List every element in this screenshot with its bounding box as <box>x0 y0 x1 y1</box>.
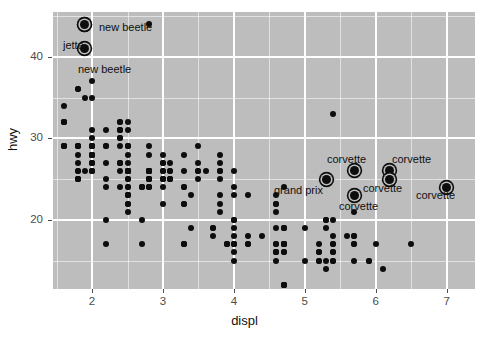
x-tick-mark <box>447 289 448 293</box>
data-point <box>195 160 201 166</box>
data-point <box>351 258 357 264</box>
data-point <box>117 184 123 190</box>
x-tick-label: 7 <box>432 296 462 308</box>
data-point <box>61 119 67 125</box>
point-label: jetta <box>63 40 84 51</box>
data-point <box>351 241 357 247</box>
gridline-minor-horizontal <box>53 98 475 99</box>
data-point <box>160 152 166 158</box>
gridline-major-horizontal <box>53 56 475 58</box>
data-point <box>82 95 88 101</box>
data-point <box>181 184 187 190</box>
data-point <box>146 168 152 174</box>
data-point <box>181 152 187 158</box>
gridline-major-vertical <box>375 12 377 289</box>
data-point <box>89 160 95 166</box>
gridline-minor-vertical <box>198 12 199 289</box>
gridline-major-horizontal <box>53 219 475 221</box>
data-point <box>323 266 329 272</box>
data-point <box>117 168 123 174</box>
data-point <box>231 258 237 264</box>
x-tick-label: 4 <box>219 296 249 308</box>
point-label: grand prix <box>274 185 323 196</box>
data-point <box>217 192 223 198</box>
data-point <box>103 176 109 182</box>
data-point <box>231 192 237 198</box>
data-point <box>146 143 152 149</box>
data-point <box>316 241 322 247</box>
y-tick-label: 40 <box>13 51 43 63</box>
data-point <box>245 233 251 239</box>
data-point <box>188 192 194 198</box>
data-point <box>302 225 308 231</box>
gridline-major-vertical <box>91 12 93 289</box>
data-point <box>75 176 81 182</box>
data-point <box>231 233 237 239</box>
data-point <box>231 184 237 190</box>
data-point <box>117 160 123 166</box>
data-point <box>89 127 95 133</box>
data-point <box>273 258 279 264</box>
data-point <box>281 249 287 255</box>
y-axis-title: hwy <box>5 104 20 176</box>
data-point <box>181 168 187 174</box>
data-point <box>103 160 109 166</box>
data-point <box>103 241 109 247</box>
data-point <box>330 249 336 255</box>
data-point <box>139 241 145 247</box>
data-point <box>231 249 237 255</box>
data-point <box>125 184 131 190</box>
data-point <box>217 176 223 182</box>
gridline-minor-horizontal <box>53 16 475 17</box>
data-point <box>103 127 109 133</box>
x-tick-label: 3 <box>148 296 178 308</box>
point-label: new beetle <box>78 64 131 75</box>
data-point <box>89 95 95 101</box>
data-point <box>89 152 95 158</box>
point-label: corvette <box>363 183 402 194</box>
data-point <box>302 258 308 264</box>
point-label: corvette <box>392 154 431 165</box>
data-point <box>89 168 95 174</box>
data-point <box>167 176 173 182</box>
y-tick-mark <box>48 57 52 58</box>
data-point <box>217 168 223 174</box>
gridline-major-horizontal <box>53 137 475 139</box>
data-point <box>160 160 166 166</box>
gridline-minor-vertical <box>411 12 412 289</box>
data-point <box>89 78 95 84</box>
y-tick-label: 20 <box>13 214 43 226</box>
data-point <box>195 176 201 182</box>
data-point <box>316 258 322 264</box>
data-point <box>231 168 237 174</box>
highlighted-data-point <box>322 175 331 184</box>
data-point <box>273 201 279 207</box>
point-label: corvette <box>416 190 455 201</box>
data-point <box>217 201 223 207</box>
data-point <box>89 143 95 149</box>
data-point <box>146 184 152 190</box>
data-point <box>316 249 322 255</box>
highlighted-data-point <box>80 20 89 29</box>
point-label: new beetle <box>99 22 152 33</box>
data-point <box>125 201 131 207</box>
data-point <box>160 201 166 207</box>
data-point <box>273 225 279 231</box>
data-point <box>75 160 81 166</box>
data-point <box>167 168 173 174</box>
gridline-major-vertical <box>304 12 306 289</box>
data-point <box>125 143 131 149</box>
data-point <box>61 103 67 109</box>
gridline-major-vertical <box>446 12 448 289</box>
data-point <box>125 168 131 174</box>
data-point <box>125 160 131 166</box>
data-point <box>103 143 109 149</box>
data-point <box>408 241 414 247</box>
data-point <box>160 176 166 182</box>
data-point <box>231 225 237 231</box>
data-point <box>217 209 223 215</box>
x-tick-mark <box>163 289 164 293</box>
data-point <box>330 241 336 247</box>
data-point <box>103 184 109 190</box>
data-point <box>217 152 223 158</box>
